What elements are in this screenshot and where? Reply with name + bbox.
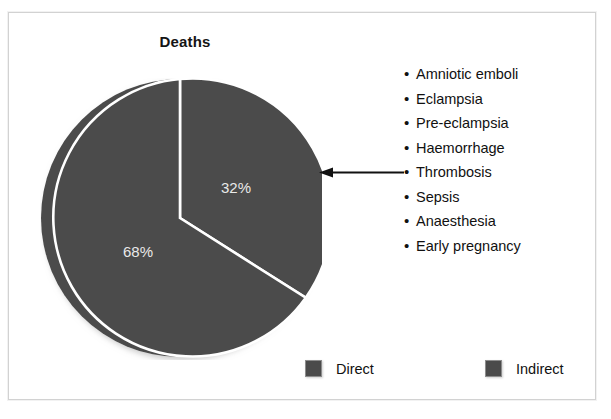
list-item: •Amniotic emboli bbox=[404, 62, 521, 87]
legend-item-indirect[interactable]: Indirect bbox=[485, 360, 564, 377]
list-item-label: Thrombosis bbox=[416, 164, 492, 180]
legend-swatch-icon bbox=[485, 360, 502, 377]
pie-chart-svg bbox=[40, 78, 322, 360]
figure-page: Deaths 32% 68% •Amniotic emboli bbox=[0, 0, 611, 419]
list-item: •Sepsis bbox=[404, 185, 521, 210]
list-item: •Haemorrhage bbox=[404, 136, 521, 161]
list-item-label: Pre-eclampsia bbox=[416, 115, 509, 131]
list-item-label: Sepsis bbox=[416, 189, 460, 205]
pie-slice-label-indirect: 32% bbox=[221, 179, 251, 196]
list-item-label: Early pregnancy bbox=[416, 238, 521, 254]
legend-swatch-icon bbox=[305, 360, 322, 377]
list-item: •Eclampsia bbox=[404, 87, 521, 112]
legend-item-direct[interactable]: Direct bbox=[305, 360, 374, 377]
bullet-icon: • bbox=[404, 62, 416, 87]
list-item: •Anaesthesia bbox=[404, 209, 521, 234]
bullet-icon: • bbox=[404, 209, 416, 234]
bullet-icon: • bbox=[404, 136, 416, 161]
list-item: •Early pregnancy bbox=[404, 234, 521, 259]
list-item-label: Anaesthesia bbox=[416, 213, 496, 229]
list-item: •Thrombosis bbox=[404, 160, 521, 185]
bullet-icon: • bbox=[404, 111, 416, 136]
list-item: •Pre-eclampsia bbox=[404, 111, 521, 136]
pie-slice-label-direct: 68% bbox=[123, 243, 153, 260]
legend-label: Direct bbox=[336, 361, 374, 377]
page-title: Deaths bbox=[110, 33, 260, 50]
bullet-icon: • bbox=[404, 160, 416, 185]
callout-arrow bbox=[316, 160, 408, 186]
bullet-icon: • bbox=[404, 87, 416, 112]
list-item-label: Eclampsia bbox=[416, 91, 483, 107]
legend-label: Indirect bbox=[516, 361, 564, 377]
bullet-icon: • bbox=[404, 185, 416, 210]
bullet-icon: • bbox=[404, 234, 416, 259]
arrow-icon bbox=[316, 160, 408, 186]
pie-chart: 32% 68% bbox=[40, 78, 322, 360]
list-item-label: Amniotic emboli bbox=[416, 66, 518, 82]
cause-list: •Amniotic emboli •Eclampsia •Pre-eclamps… bbox=[404, 62, 521, 258]
list-item-label: Haemorrhage bbox=[416, 140, 505, 156]
